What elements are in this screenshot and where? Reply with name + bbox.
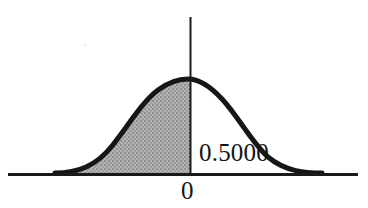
shaded-area-group bbox=[55, 79, 190, 174]
normal-curve-figure: 0.5000 0 bbox=[0, 0, 368, 208]
scan-speck-artifact bbox=[83, 43, 87, 47]
shaded-area-left-of-zero bbox=[55, 79, 190, 174]
area-value-label: 0.5000 bbox=[199, 140, 269, 165]
origin-tick-label: 0 bbox=[181, 178, 194, 203]
